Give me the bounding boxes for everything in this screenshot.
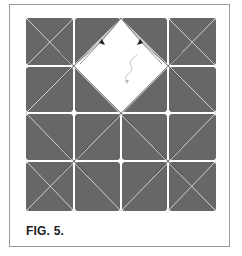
figure-caption: FIG. 5.	[26, 224, 64, 238]
origami-diagram	[0, 0, 242, 256]
